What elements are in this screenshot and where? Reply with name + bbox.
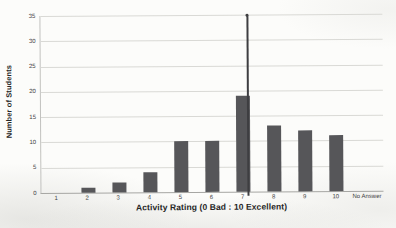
bar [267, 126, 281, 192]
y-tick-label: 35 [0, 12, 35, 19]
gridline [41, 90, 383, 93]
y-tick-label: 15 [0, 114, 36, 121]
annotation-top-marker [245, 13, 248, 16]
x-tick-label: 10 [320, 193, 351, 200]
y-tick-label: 20 [0, 88, 36, 95]
x-tick-label: 9 [289, 193, 320, 200]
y-tick-label: 25 [0, 63, 36, 70]
bar [112, 182, 126, 192]
x-tick-label: 4 [134, 194, 165, 201]
y-tick-label: 5 [0, 164, 36, 171]
gridline [41, 39, 383, 42]
x-tick-label: 8 [258, 193, 289, 200]
x-tick-label: 3 [103, 194, 134, 201]
bar [81, 188, 95, 193]
x-tick-label: No Answer [351, 193, 382, 200]
x-tick-label: 6 [196, 194, 227, 201]
gridline [40, 14, 382, 17]
chart-image: Number of Students Activity Rating (0 Ba… [0, 0, 396, 228]
bar [205, 141, 219, 192]
bar [329, 135, 343, 191]
bar [174, 141, 188, 192]
x-tick-label: 2 [72, 195, 103, 202]
x-axis-title: Activity Rating (0 Bad : 10 Excellent) [41, 201, 383, 213]
x-tick-label: 7 [227, 194, 258, 201]
y-tick-label: 30 [0, 38, 36, 45]
plot-area [39, 14, 383, 194]
y-tick-label: 0 [0, 189, 36, 196]
y-tick-label: 10 [0, 139, 36, 146]
bar-chart: Number of Students Activity Rating (0 Ba… [0, 0, 396, 228]
bar [143, 172, 157, 192]
gridline [41, 64, 383, 67]
bar [298, 131, 312, 192]
x-tick-label: 1 [40, 195, 71, 202]
gridline [41, 115, 383, 118]
x-tick-label: 5 [165, 194, 196, 201]
